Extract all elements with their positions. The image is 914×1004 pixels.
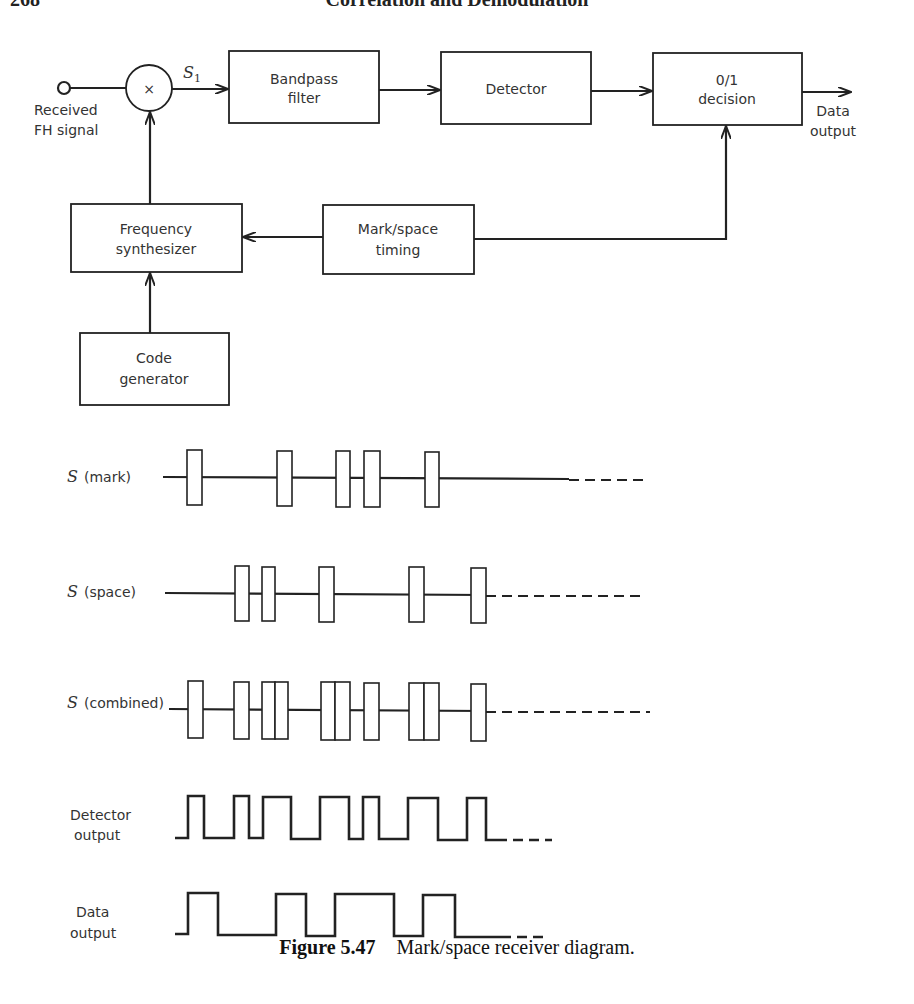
space-label: S(space): [67, 582, 136, 601]
decision-box: [653, 53, 802, 125]
figure-caption-text: Mark/space receiver diagram.: [397, 936, 635, 958]
data-output-label-1: Data: [76, 904, 109, 920]
codegen-label-1: Code: [136, 350, 172, 366]
waveform-combined: [169, 681, 650, 741]
code-generator-box: [80, 333, 229, 405]
decision-label-2: decision: [698, 91, 756, 107]
timing-to-decision-line: [474, 126, 726, 239]
timing-label-1: Mark/space: [358, 221, 438, 237]
s1-label: S1: [183, 63, 201, 85]
detector-output-label-2: output: [74, 827, 121, 843]
input-terminal-icon: [58, 82, 70, 94]
figure-canvas: × Received FH signal S1 Bandpass filter …: [0, 0, 914, 1004]
bandpass-filter-box: [229, 51, 379, 123]
input-label-line1: Received: [34, 102, 98, 118]
mark-label: S(mark): [67, 467, 131, 486]
waveform-data-output: [175, 893, 545, 937]
detector-output-label-1: Detector: [70, 807, 131, 823]
mark-space-timing-box: [323, 205, 474, 274]
synth-label-2: synthesizer: [116, 241, 197, 257]
bandpass-label-2: filter: [288, 90, 321, 106]
timing-label-2: timing: [376, 242, 421, 258]
waveform-mark: [163, 450, 645, 507]
synth-label-1: Frequency: [120, 221, 192, 237]
detector-label: Detector: [485, 81, 546, 97]
combined-label: S(combined): [67, 693, 164, 712]
waveform-space: [165, 566, 645, 623]
codegen-label-2: generator: [119, 371, 188, 387]
waveform-labels: S(mark) S(space) S(combined) Detector ou…: [67, 467, 164, 941]
block-diagram-labels: × Received FH signal S1 Bandpass filter …: [34, 63, 857, 387]
output-label-line2: output: [810, 123, 857, 139]
figure-caption: Figure 5.47 Mark/space receiver diagram.: [0, 936, 914, 959]
input-label-line2: FH signal: [34, 122, 98, 138]
waveform-detector-output: [175, 796, 552, 840]
frequency-synthesizer-box: [71, 204, 242, 272]
mixer-symbol: ×: [143, 81, 155, 97]
decision-label-1: 0/1: [716, 72, 739, 88]
page: 268 Correlation and Demodulation: [0, 0, 914, 1004]
bandpass-label-1: Bandpass: [270, 71, 338, 87]
output-label-line1: Data: [816, 103, 849, 119]
figure-number: Figure 5.47: [279, 936, 375, 958]
